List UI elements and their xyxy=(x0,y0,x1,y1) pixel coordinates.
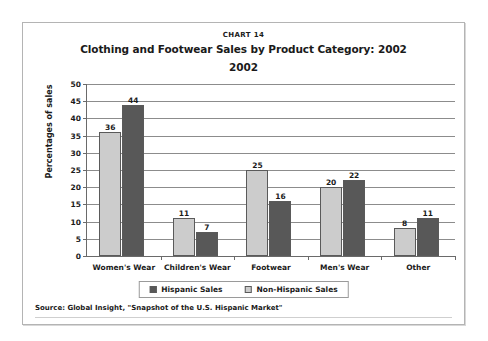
bar-value-label: 20 xyxy=(326,178,336,187)
y-tick-label: 5 xyxy=(76,234,81,243)
x-tick-label: Footwear xyxy=(251,263,291,272)
bar-value-label: 22 xyxy=(349,171,359,180)
y-tick-label: 10 xyxy=(71,217,81,226)
bar-value-label: 7 xyxy=(204,223,209,232)
chart-subtitle: 2002 xyxy=(23,61,464,73)
chart-number: CHART 14 xyxy=(23,31,464,39)
bar-value-label: 44 xyxy=(128,96,138,105)
bar-group: 2022 xyxy=(308,84,382,256)
y-tick-label: 15 xyxy=(71,200,81,209)
bar: 11 xyxy=(173,218,195,256)
legend-label: Hispanic Sales xyxy=(161,285,222,294)
chart-legend: Hispanic SalesNon-Hispanic Sales xyxy=(138,281,348,298)
legend-swatch-icon xyxy=(245,286,252,293)
bar-value-label: 11 xyxy=(422,209,432,218)
bar: 11 xyxy=(417,218,439,256)
bar-value-label: 11 xyxy=(179,209,189,218)
y-tick-mark xyxy=(83,256,87,257)
y-axis-title: Percentages of sales xyxy=(45,62,54,202)
y-tick-label: 35 xyxy=(71,131,81,140)
bar-value-label: 16 xyxy=(275,192,285,201)
bar: 22 xyxy=(343,180,365,256)
y-tick-label: 50 xyxy=(71,80,81,89)
bar-value-label: 8 xyxy=(402,219,407,228)
y-tick-label: 40 xyxy=(71,114,81,123)
bar: 36 xyxy=(99,132,121,256)
bar-group: 3644 xyxy=(87,84,161,256)
x-tick-label: Men's Wear xyxy=(320,263,369,272)
y-tick-label: 20 xyxy=(71,183,81,192)
y-tick-label: 45 xyxy=(71,97,81,106)
x-tick-label: Children's Wear xyxy=(164,263,231,272)
bar-value-label: 25 xyxy=(252,161,262,170)
x-tick-mark xyxy=(234,256,235,260)
bar: 25 xyxy=(246,170,268,256)
source-note: Source: Global Insight, "Snapshot of the… xyxy=(35,304,282,312)
plot-area: 05101520253035404550 364411725162022811 … xyxy=(86,84,455,257)
chart-title: Clothing and Footwear Sales by Product C… xyxy=(23,43,464,55)
x-tick-mark xyxy=(308,256,309,260)
y-tick-label: 25 xyxy=(71,166,81,175)
bar: 16 xyxy=(269,201,291,256)
bar-group: 2516 xyxy=(234,84,308,256)
x-tick-label: Other xyxy=(406,263,430,272)
y-tick-label: 30 xyxy=(71,148,81,157)
bar: 7 xyxy=(196,232,218,256)
bar: 44 xyxy=(122,105,144,256)
bar: 8 xyxy=(394,228,416,256)
bars-layer: 364411725162022811 xyxy=(87,84,455,256)
legend-label: Non-Hispanic Sales xyxy=(257,285,338,294)
x-tick-label: Women's Wear xyxy=(92,263,155,272)
y-tick-label: 0 xyxy=(76,252,81,261)
chart-frame: CHART 14 Clothing and Footwear Sales by … xyxy=(22,22,465,325)
bar-group: 117 xyxy=(161,84,235,256)
bar-group: 811 xyxy=(381,84,455,256)
x-tick-mark xyxy=(161,256,162,260)
source-divider xyxy=(35,317,452,318)
legend-entry: Non-Hispanic Sales xyxy=(245,285,338,294)
bar: 20 xyxy=(320,187,342,256)
legend-swatch-icon xyxy=(149,286,156,293)
bar-value-label: 36 xyxy=(105,123,115,132)
legend-entry: Hispanic Sales xyxy=(149,285,222,294)
x-tick-mark xyxy=(455,256,456,260)
x-tick-mark xyxy=(381,256,382,260)
